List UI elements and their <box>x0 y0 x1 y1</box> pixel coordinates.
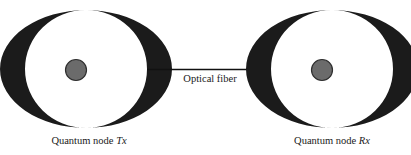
optical-fiber-label: Optical fiber <box>150 73 270 85</box>
node-label-tx: Quantum node Tx <box>0 135 178 147</box>
trapped-atom-tx <box>66 60 87 81</box>
node-label-rx: Quantum node Rx <box>243 135 411 147</box>
node-label-rx-prefix: Quantum node <box>294 135 359 146</box>
cavity-mirror-right-rx <box>332 10 411 128</box>
node-label-tx-prefix: Quantum node <box>51 135 116 146</box>
node-label-tx-emphasis: Tx <box>116 135 127 146</box>
quantum-node-rx <box>246 10 411 128</box>
quantum-node-tx <box>0 10 172 128</box>
node-label-rx-emphasis: Rx <box>359 135 370 146</box>
trapped-atom-rx <box>312 60 333 81</box>
quantum-link-figure: Quantum node Tx Quantum node Rx Optical … <box>0 0 411 155</box>
